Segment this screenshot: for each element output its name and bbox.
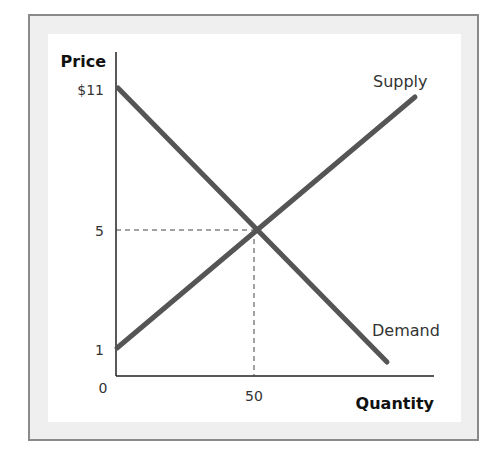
y-tick-5: 5 [95, 223, 104, 239]
y-tick-11: $11 [77, 82, 104, 98]
y-tick-1: 1 [95, 342, 104, 358]
y-axis-title: Price [61, 52, 107, 71]
supply-demand-chart: Price Quantity $11 5 1 0 50 Supply Deman… [0, 0, 504, 461]
supply-label: Supply [373, 72, 428, 91]
demand-curve [118, 88, 387, 362]
x-tick-0: 0 [99, 380, 108, 396]
x-tick-50: 50 [245, 388, 263, 404]
demand-label: Demand [372, 321, 440, 340]
x-axis-title: Quantity [356, 394, 435, 413]
